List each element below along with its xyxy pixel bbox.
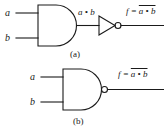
nand-gate-bubble-partb — [102, 87, 108, 93]
output-expression-partb: a • b — [131, 69, 148, 79]
output-label-parta: f =a • b — [126, 7, 155, 16]
input-label-a-parta: a — [5, 8, 10, 18]
caption-part-a: (a) — [70, 50, 80, 59]
output-label-partb: f =a • b — [118, 70, 147, 79]
output-expression-parta: a • b — [139, 6, 156, 16]
nand-gate-shape-partb — [63, 69, 101, 110]
input-label-b-partb: b — [30, 97, 35, 107]
caption-part-b: (b) — [73, 117, 84, 126]
intermediate-wire-label-parta: a • b — [78, 8, 95, 17]
input-label-a-partb: a — [30, 72, 35, 82]
output-prefix-partb: f = — [118, 69, 129, 79]
figure-canvas: a b a • b f =a • b (a) a b f =a • b (b) — [0, 0, 164, 135]
input-label-b-parta: b — [5, 33, 10, 43]
output-prefix-parta: f = — [126, 6, 137, 16]
and-gate-shape-parta — [38, 5, 76, 46]
not-gate-shape-parta — [99, 16, 115, 35]
logic-diagram-svg — [0, 0, 164, 135]
